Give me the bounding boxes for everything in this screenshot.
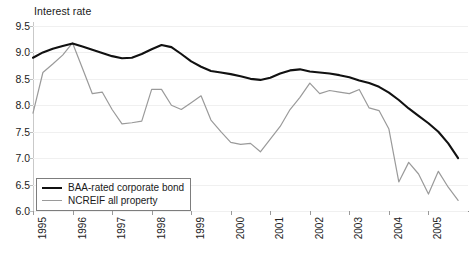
y-axis-tick-label: 6.5 (2, 179, 30, 191)
x-axis-tick-label: 2004 (393, 217, 404, 239)
x-axis-tick-label: 1997 (116, 217, 127, 239)
x-axis-tick-mark (231, 211, 232, 215)
x-axis-tick-mark (428, 211, 429, 215)
interest-rate-chart: Interest rate 6.06.57.07.58.08.59.09.5 1… (0, 0, 474, 258)
x-axis-tick-label: 2000 (235, 217, 246, 239)
y-axis-tick-label: 7.0 (2, 152, 30, 164)
y-axis-tick-label: 9.0 (2, 46, 30, 58)
x-axis-tick-label: 2001 (274, 217, 285, 239)
y-axis-tick-label: 7.5 (2, 126, 30, 138)
x-axis-tick-mark (33, 211, 34, 215)
gridline (33, 211, 468, 212)
x-axis-tick-mark (73, 211, 74, 215)
legend-swatch-baa-icon (42, 187, 62, 189)
x-axis-tick-label: 1996 (77, 217, 88, 239)
series-line (33, 43, 458, 158)
x-axis-tick-label: 2003 (353, 217, 364, 239)
x-axis-tick-label: 1995 (37, 217, 48, 239)
series-line (33, 43, 458, 201)
y-axis-labels: 6.06.57.07.58.08.59.09.5 (0, 0, 30, 258)
x-axis-tick-mark (389, 211, 390, 215)
x-axis-tick-label: 2005 (432, 217, 443, 239)
chart-title: Interest rate (34, 5, 91, 17)
legend-item-ncreif: NCREIF all property (42, 194, 184, 207)
legend-item-baa: BAA-rated corporate bond (42, 181, 184, 194)
x-axis-tick-mark (152, 211, 153, 215)
legend-label-ncreif: NCREIF all property (68, 194, 157, 207)
x-axis-tick-label: 2002 (314, 217, 325, 239)
y-axis-tick-label: 8.5 (2, 73, 30, 85)
legend-swatch-ncreif-icon (42, 200, 62, 201)
x-axis-tick-mark (310, 211, 311, 215)
x-axis-tick-label: 1998 (156, 217, 167, 239)
x-axis-tick-mark (191, 211, 192, 215)
x-axis-tick-mark (112, 211, 113, 215)
chart-legend: BAA-rated corporate bond NCREIF all prop… (36, 178, 191, 211)
y-axis-tick-label: 8.0 (2, 99, 30, 111)
legend-label-baa: BAA-rated corporate bond (68, 181, 184, 194)
x-axis-tick-mark (349, 211, 350, 215)
y-axis-tick-label: 6.0 (2, 205, 30, 217)
x-axis-tick-mark (270, 211, 271, 215)
y-axis-tick-label: 9.5 (2, 20, 30, 32)
x-axis-tick-label: 1999 (195, 217, 206, 239)
